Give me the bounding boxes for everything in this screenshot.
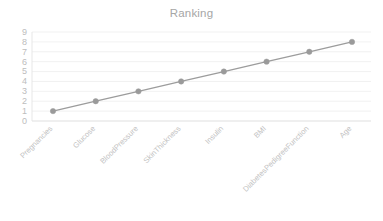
y-axis-tick-label: 7: [22, 47, 27, 57]
data-point-marker: [349, 39, 354, 44]
data-point-marker: [264, 59, 269, 64]
data-point-marker: [221, 69, 226, 74]
y-axis-tick-label: 6: [22, 57, 27, 67]
data-point-marker: [93, 99, 98, 104]
x-axis-tick-label: DiabetesPedigreeFunction: [241, 124, 311, 194]
y-axis-tick-label: 3: [22, 86, 27, 96]
y-axis-tick-label: 1: [22, 106, 27, 116]
data-point-marker: [307, 49, 312, 54]
y-axis-tick-label: 5: [22, 66, 27, 76]
x-axis-tick-label: BloodPressure: [98, 124, 140, 166]
chart-plot-area: 9876543210 PregnanciesGlucoseBloodPressu…: [0, 0, 383, 221]
x-axis-tick-label: Age: [337, 124, 353, 140]
chart-container: Ranking 9876543210 PregnanciesGlucoseBlo…: [0, 0, 383, 221]
x-axis-tick-label: SkinThickness: [142, 124, 183, 165]
data-point-marker: [50, 108, 55, 113]
x-axis-tick-label: Glucose: [71, 124, 97, 150]
data-point-marker: [136, 89, 141, 94]
data-point-marker: [178, 79, 183, 84]
x-axis-tick-label: BMI: [252, 124, 268, 140]
x-axis-tick-label: Pregnancies: [18, 124, 54, 160]
y-axis-tick-label: 9: [22, 27, 27, 37]
x-axis-tick-labels: PregnanciesGlucoseBloodPressureSkinThick…: [18, 124, 353, 194]
y-axis-tick-label: 2: [22, 96, 27, 106]
x-axis-tick-label: Insulin: [203, 124, 225, 146]
y-axis-tick-label: 8: [22, 37, 27, 47]
y-axis-tick-label: 0: [22, 116, 27, 126]
y-axis-tick-label: 4: [22, 76, 27, 86]
y-axis-tick-labels: 9876543210: [22, 27, 27, 126]
